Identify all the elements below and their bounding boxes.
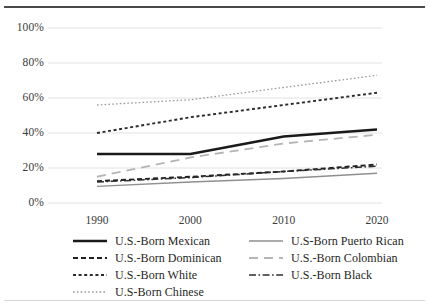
series-line	[97, 93, 377, 133]
legend-line-swatch-icon	[72, 286, 108, 298]
legend-line-swatch-icon	[248, 235, 284, 247]
legend-item-label: U.S.-Born Mexican	[115, 235, 210, 247]
plot-area	[48, 20, 382, 211]
legend-item-label: U.S.-Born Black	[291, 269, 372, 281]
y-tick-label: 20%	[0, 162, 44, 174]
series-line	[97, 75, 377, 105]
legend-item[interactable]: U.S-Born Chinese	[72, 284, 204, 300]
legend-line-swatch-icon	[248, 269, 284, 281]
y-tick-label: 0%	[0, 197, 44, 209]
y-tick-label: 60%	[0, 92, 44, 104]
legend-item-label: U.S.-Born Dominican	[115, 252, 222, 264]
legend-item[interactable]: U.S.-Born Colombian	[248, 250, 398, 266]
legend-item-label: U.S.-Born Colombian	[291, 252, 398, 264]
y-tick-label: 80%	[0, 57, 44, 69]
legend-item-label: U.S-Born Puerto Rican	[291, 235, 404, 247]
series-line	[97, 135, 377, 177]
legend-item-label: U.S.-Born White	[115, 269, 197, 281]
legend-line-swatch-icon	[72, 269, 108, 281]
legend-item[interactable]: U.S.-Born Black	[248, 267, 372, 283]
x-tick-label: 2010	[254, 215, 314, 227]
chart-legend: U.S.-Born MexicanU.S-Born Puerto RicanU.…	[72, 233, 402, 299]
legend-item[interactable]: U.S.-Born White	[72, 267, 197, 283]
legend-item[interactable]: U.S-Born Puerto Rican	[248, 233, 404, 249]
x-tick-label: 2020	[347, 215, 407, 227]
legend-item[interactable]: U.S.-Born Dominican	[72, 250, 222, 266]
top-divider-rule	[4, 6, 425, 8]
x-tick-label: 1990	[67, 215, 127, 227]
line-chart-svg	[48, 20, 382, 211]
legend-item[interactable]: U.S.-Born Mexican	[72, 233, 210, 249]
legend-item-label: U.S-Born Chinese	[115, 286, 204, 298]
legend-line-swatch-icon	[248, 252, 284, 264]
y-axis-tick-labels: 100%80%60%40%20%0%	[0, 0, 44, 220]
bottom-divider-rule	[4, 300, 425, 301]
y-tick-label: 100%	[0, 22, 44, 34]
legend-line-swatch-icon	[72, 252, 108, 264]
x-tick-label: 2000	[160, 215, 220, 227]
series-line	[97, 165, 377, 182]
y-tick-label: 40%	[0, 127, 44, 139]
legend-line-swatch-icon	[72, 235, 108, 247]
chart-figure: 100%80%60%40%20%0% 1990200020102020 U.S.…	[0, 0, 429, 306]
